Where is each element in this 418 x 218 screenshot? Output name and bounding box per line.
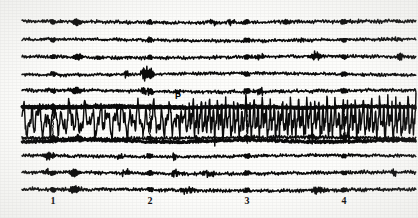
trace-8: [22, 152, 416, 160]
minute-mark: [51, 188, 54, 191]
minute-mark: [51, 155, 54, 157]
minute-mark: [245, 189, 249, 192]
trace-4: [22, 66, 416, 81]
minute-mark: [51, 136, 55, 139]
seismogram-plot-area: 1 2 3 4 P: [0, 0, 418, 218]
calibration-pulse: [69, 170, 79, 177]
trace-2: [22, 37, 416, 43]
minute-mark: [342, 39, 346, 41]
minute-mark: [245, 20, 249, 23]
minute-mark: [148, 20, 151, 23]
calibration-pulse: [72, 135, 82, 141]
minute-mark: [148, 154, 153, 157]
minute-mark: [245, 89, 250, 92]
trace-group: [22, 19, 416, 194]
minute-mark: [342, 189, 347, 192]
axis-tick-label-2: 2: [148, 196, 153, 206]
minute-mark: [147, 137, 152, 139]
calibration-pulse: [73, 54, 83, 59]
minute-mark: [342, 172, 346, 174]
pre-p-baseline: [22, 106, 180, 108]
calibration-pulse: [69, 187, 79, 193]
p-wave-label: P: [175, 92, 181, 101]
minute-mark: [342, 73, 346, 76]
minute-mark: [51, 90, 55, 93]
minute-mark: [148, 73, 152, 76]
trace-10: [22, 186, 416, 194]
calibration-pulse: [72, 19, 82, 25]
minute-mark: [245, 136, 249, 139]
minute-mark: [245, 73, 250, 76]
trace-9: [22, 169, 416, 178]
minute-mark: [342, 155, 345, 157]
minute-mark: [148, 171, 153, 174]
trace-canvas: [0, 0, 418, 218]
minute-mark: [342, 90, 346, 93]
minute-mark: [148, 89, 152, 92]
seismogram-figure: 1 2 3 4 P: [0, 0, 418, 218]
axis-tick-label-1: 1: [51, 196, 56, 206]
minute-mark: [51, 20, 55, 23]
minute-mark: [148, 56, 151, 59]
minute-mark: [51, 172, 55, 175]
minute-mark: [245, 55, 248, 58]
minute-mark: [51, 55, 55, 57]
axis-tick-label-3: 3: [245, 196, 250, 206]
minute-mark: [148, 38, 152, 41]
minute-mark: [245, 171, 250, 174]
minute-mark: [245, 39, 250, 42]
minute-mark: [51, 38, 55, 41]
minute-mark: [148, 188, 152, 191]
minute-mark: [341, 20, 346, 23]
axis-tick-label-4: 4: [342, 196, 347, 206]
minute-mark: [51, 72, 55, 75]
minute-mark: [342, 56, 346, 59]
minute-mark: [245, 154, 250, 157]
minute-mark: [342, 137, 346, 140]
